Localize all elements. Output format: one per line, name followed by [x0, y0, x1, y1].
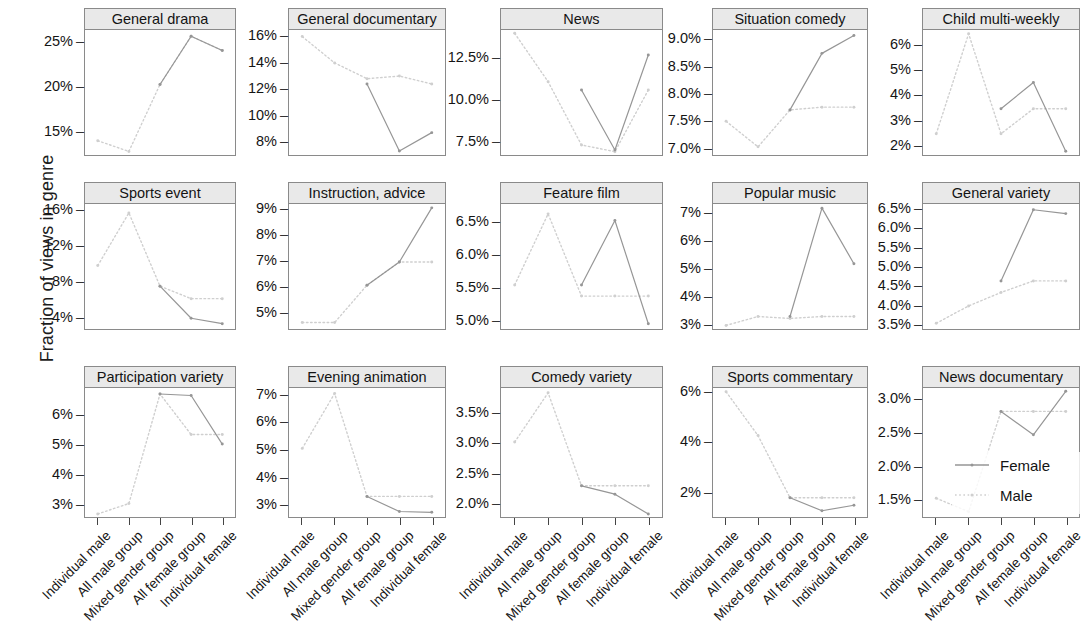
x-tick [968, 518, 969, 525]
plot-area [288, 204, 446, 330]
plot-area [500, 30, 663, 156]
chart-legend: FemaleMale [952, 452, 1080, 514]
legend-item-male: Male [952, 482, 1033, 508]
data-point [935, 132, 938, 135]
x-tick [725, 518, 726, 525]
series-line-male [936, 34, 1065, 134]
data-point [820, 52, 823, 55]
data-point [301, 447, 304, 450]
y-tick-label: 20%– [44, 78, 84, 94]
data-point [580, 484, 583, 487]
y-axis-ticks: 2.0%–2.5%–3.0%–3.5%– [438, 388, 500, 518]
plot-area [712, 388, 868, 518]
y-tick-label: 12%– [248, 80, 288, 96]
y-tick-label: 6%– [256, 278, 288, 294]
data-point [398, 150, 401, 153]
y-tick-label: 10%– [248, 107, 288, 123]
data-point [613, 149, 616, 152]
y-tick-label: 8%– [52, 273, 84, 289]
y-tick-label: 7%– [256, 386, 288, 402]
data-point [757, 315, 760, 318]
data-point [1000, 107, 1003, 110]
data-point [1000, 291, 1003, 294]
x-tick [367, 518, 368, 525]
panel-title: Popular music [712, 182, 868, 204]
data-point [96, 264, 99, 267]
x-axis-labels: Individual maleAll male groupMixed gende… [84, 528, 236, 638]
data-point [613, 484, 616, 487]
faceted-line-chart: Fraction of views in genre General drama… [0, 0, 1085, 641]
series-line-male [515, 393, 649, 486]
data-point [1032, 279, 1035, 282]
panel-popular-music: Popular music3%–4%–5%–6%–7%– [712, 182, 868, 330]
data-point [852, 34, 855, 37]
plot-area [712, 204, 868, 330]
panel-situation-comedy: Situation comedy7.0%–7.5%–8.0%–8.5%–9.0%… [712, 8, 868, 156]
data-point [613, 295, 616, 298]
series-line-female [790, 35, 854, 109]
series-line-female [1001, 83, 1066, 152]
data-point [301, 35, 304, 38]
y-tick-label: 6%– [680, 232, 712, 248]
panel-general-variety: General variety3.5%–4.0%–4.5%–5.0%–5.5%–… [922, 182, 1080, 330]
data-point [430, 495, 433, 498]
x-tick [301, 518, 302, 525]
panel-feature-film: Feature film5.0%–5.5%–6.0%–6.5%– [500, 182, 663, 330]
y-tick-label: 5%– [256, 304, 288, 320]
y-tick-label: 7.5%– [668, 112, 712, 128]
panel-comedy-variety: Comedy variety2.0%–2.5%–3.0%–3.5%–Indivi… [500, 366, 663, 518]
x-axis-labels: Individual maleAll male groupMixed gende… [288, 528, 446, 638]
panel-general-documentary: General documentary8%–10%–12%–14%–16%– [288, 8, 446, 156]
data-point [430, 260, 433, 263]
series-line-female [367, 208, 432, 285]
series-line-female [1001, 391, 1066, 434]
series-line-male [302, 393, 431, 496]
y-tick-label: 2.0%– [878, 458, 922, 474]
x-axis-ticks [288, 518, 446, 525]
y-tick-label: 9.0%– [668, 30, 712, 46]
data-point [1032, 107, 1035, 110]
data-point [190, 317, 193, 320]
data-point [398, 260, 401, 263]
y-axis-ticks: 5.0%–5.5%–6.0%–6.5%– [438, 204, 500, 330]
y-tick-label: 5%– [256, 441, 288, 457]
y-tick-label: 4.5%– [878, 277, 922, 293]
data-point [725, 324, 728, 327]
y-tick-label: 4.0%– [878, 297, 922, 313]
y-tick-label: 3.5%– [456, 404, 500, 420]
y-tick-label: 2.0%– [456, 495, 500, 511]
data-point [580, 295, 583, 298]
series-line-female [160, 394, 222, 444]
plot-area [500, 388, 663, 518]
x-tick [1001, 518, 1002, 525]
x-axis-labels: Individual maleAll male groupMixed gende… [500, 528, 663, 638]
y-tick-label: 16%– [248, 27, 288, 43]
y-tick-label: 5.0%– [456, 312, 500, 328]
data-point [366, 495, 369, 498]
data-point [1000, 132, 1003, 135]
panel-title: Instruction, advice [288, 182, 446, 204]
y-tick-label: 6.0%– [878, 219, 922, 235]
data-point [725, 390, 728, 393]
y-axis-ticks: 7.5%–10.0%–12.5%– [438, 30, 500, 156]
y-tick-label: 3.5%– [878, 316, 922, 332]
x-tick [790, 518, 791, 525]
data-point [127, 211, 130, 214]
data-point [366, 284, 369, 287]
legend-key-solid-line-icon [952, 459, 992, 471]
x-tick [1034, 518, 1035, 525]
legend-label: Female [1000, 457, 1050, 474]
data-point [190, 297, 193, 300]
data-point [820, 509, 823, 512]
data-point [852, 504, 855, 507]
data-point [1064, 279, 1067, 282]
panel-sports-event: Sports event4%–8%–12%–16%– [84, 182, 236, 330]
data-point [221, 322, 224, 325]
series-line-female [582, 486, 649, 514]
data-point [159, 393, 162, 396]
panel-title: General variety [922, 182, 1080, 204]
y-tick-label: 3%– [256, 496, 288, 512]
data-point [1032, 81, 1035, 84]
data-point [221, 443, 224, 446]
data-point [96, 139, 99, 142]
